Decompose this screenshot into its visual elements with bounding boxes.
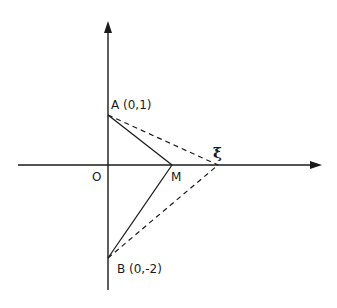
y-axis-arrow-icon: [104, 21, 112, 33]
label-origin: O: [92, 170, 101, 184]
diagram-canvas: A (0,1) B (0,-2) O M ξ: [0, 0, 337, 308]
label-point-b: B (0,-2): [117, 262, 162, 276]
label-point-a: A (0,1): [111, 98, 151, 112]
segment-a-m: [108, 115, 172, 165]
label-point-m: M: [171, 170, 181, 184]
segment-b-m: [108, 165, 172, 258]
x-axis-arrow-icon: [310, 161, 322, 169]
label-point-xi: ξ: [213, 144, 222, 162]
